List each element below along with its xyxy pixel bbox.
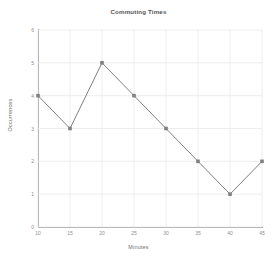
data-point-marker — [260, 160, 264, 164]
x-axis-tick-label: 40 — [222, 230, 238, 236]
data-point-marker — [196, 160, 200, 164]
data-point-marker — [100, 61, 104, 65]
y-axis-tick-label: 2 — [20, 158, 34, 164]
x-axis-tick-label: 10 — [30, 230, 46, 236]
chart-container: Commuting Times 0123456 1015202530354045… — [0, 0, 277, 261]
data-point-marker — [228, 192, 232, 196]
y-axis-tick-label: 3 — [20, 126, 34, 132]
y-axis-tick-label: 1 — [20, 191, 34, 197]
data-point-marker — [36, 94, 40, 98]
chart-title: Commuting Times — [0, 7, 277, 16]
y-axis-tick-label: 5 — [20, 60, 34, 66]
x-axis-title: Minutes — [0, 244, 277, 250]
x-axis-tick-label: 20 — [94, 230, 110, 236]
y-axis-tick-label: 4 — [20, 93, 34, 99]
y-axis-title: Occurrences — [7, 83, 13, 147]
data-point-marker — [132, 94, 136, 98]
x-axis-tick-label: 25 — [126, 230, 142, 236]
x-axis-tick-label: 35 — [190, 230, 206, 236]
data-series-occurrences — [38, 30, 262, 227]
plot-area — [38, 30, 262, 227]
x-axis-tick-label: 15 — [62, 230, 78, 236]
x-axis-tick-label: 30 — [158, 230, 174, 236]
data-point-marker — [164, 127, 168, 131]
y-axis-tick-label: 6 — [20, 27, 34, 33]
data-point-marker — [68, 127, 72, 131]
x-axis-tick-label: 45 — [254, 230, 270, 236]
